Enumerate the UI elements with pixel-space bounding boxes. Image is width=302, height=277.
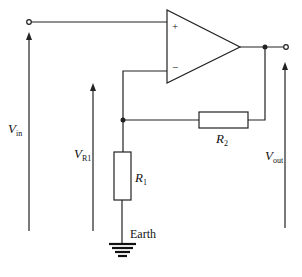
vr1-arrowhead-icon <box>90 83 96 91</box>
ground-icon <box>109 244 136 256</box>
opamp-plus-label: + <box>172 20 178 32</box>
inverting-input-wire <box>123 71 167 152</box>
vout-arrowhead-icon <box>282 62 288 70</box>
circuit-diagram: + − Vin VR1 Vout R2 R1 Earth <box>0 0 302 277</box>
resistor-r2 <box>199 112 248 128</box>
opamp-minus-label: − <box>172 61 178 73</box>
resistor-r1 <box>114 152 131 200</box>
earth-label: Earth <box>130 227 156 241</box>
vin-arrowhead-icon <box>26 32 32 40</box>
output-junction-dot <box>263 45 268 50</box>
vin-label: Vin <box>8 121 22 138</box>
feedback-junction-dot <box>121 118 126 123</box>
output-terminal <box>284 45 289 50</box>
vout-label: Vout <box>265 148 284 165</box>
vr1-label: VR1 <box>74 146 91 163</box>
r2-right-wire <box>248 47 265 120</box>
r2-label: R2 <box>215 131 228 148</box>
r1-label: R1 <box>134 170 147 187</box>
input-terminal <box>27 20 32 25</box>
